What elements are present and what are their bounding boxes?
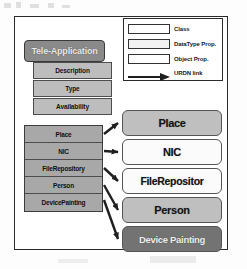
scan-artifact bbox=[16, 2, 21, 8]
class-title-device-painting: Device Painting bbox=[139, 234, 205, 245]
class-title-person: Person bbox=[154, 204, 190, 216]
scan-artifact bbox=[30, 4, 39, 8]
class-title-filerepositor: FileRepositor bbox=[140, 175, 203, 187]
object-label-filerepository: FileRepository bbox=[42, 165, 84, 172]
class-box-person[interactable]: Person bbox=[122, 197, 222, 223]
legend-item-link: URDN link bbox=[128, 66, 202, 79]
legend: Class DataType Prop. Object Prop. URDN l… bbox=[123, 18, 223, 81]
datatype-row-availability[interactable]: Availability bbox=[33, 98, 112, 115]
class-box-place[interactable]: Place bbox=[122, 110, 222, 136]
object-row-person[interactable]: Person bbox=[25, 177, 102, 194]
legend-label-object: Object Prop. bbox=[174, 56, 208, 62]
object-label-nic: NIC bbox=[58, 148, 69, 155]
legend-label-link: URDN link bbox=[174, 70, 202, 76]
datatype-label-availability: Availability bbox=[56, 103, 89, 110]
datatype-row-type[interactable]: Type bbox=[33, 80, 112, 97]
datatype-row-description[interactable]: Description bbox=[33, 62, 112, 79]
class-title-nic: NIC bbox=[163, 146, 181, 158]
class-box-filerepositor[interactable]: FileRepositor bbox=[122, 168, 222, 194]
class-swatch-icon bbox=[128, 24, 170, 34]
legend-label-datatype: DataType Prop. bbox=[174, 41, 216, 47]
scan-artifact bbox=[58, 259, 88, 263]
scan-artifact bbox=[4, 3, 11, 8]
datatype-label-type: Type bbox=[65, 85, 79, 92]
datatype-label-description: Description bbox=[55, 67, 90, 74]
legend-item-class: Class bbox=[128, 22, 190, 35]
object-swatch-icon bbox=[128, 54, 170, 64]
object-property-stack: Place NIC FileRepository Person DevicePa… bbox=[24, 125, 103, 212]
datatype-swatch-icon bbox=[128, 39, 170, 49]
legend-item-object: Object Prop. bbox=[128, 52, 208, 65]
class-box-nic[interactable]: NIC bbox=[122, 139, 222, 165]
class-title-tele-application: Tele-Application bbox=[31, 46, 97, 56]
object-label-place: Place bbox=[56, 131, 72, 138]
object-label-devicepainting: DevicePainting bbox=[42, 199, 86, 206]
scan-artifact bbox=[62, 5, 70, 8]
class-box-device-painting[interactable]: Device Painting bbox=[122, 226, 222, 252]
object-label-person: Person bbox=[53, 182, 74, 189]
scan-artifact bbox=[150, 256, 196, 263]
object-row-filerepository[interactable]: FileRepository bbox=[25, 160, 102, 177]
object-row-place[interactable]: Place bbox=[25, 126, 102, 143]
legend-item-datatype: DataType Prop. bbox=[128, 37, 216, 50]
class-title-place: Place bbox=[158, 117, 185, 129]
object-row-devicepainting[interactable]: DevicePainting bbox=[25, 194, 102, 211]
object-row-nic[interactable]: NIC bbox=[25, 143, 102, 160]
scan-artifact bbox=[48, 3, 54, 8]
class-box-tele-application[interactable]: Tele-Application bbox=[24, 40, 105, 62]
datatype-property-stack: Description Type Availability bbox=[33, 62, 112, 116]
arrow-swatch-icon bbox=[128, 68, 170, 78]
legend-label-class: Class bbox=[174, 26, 190, 32]
